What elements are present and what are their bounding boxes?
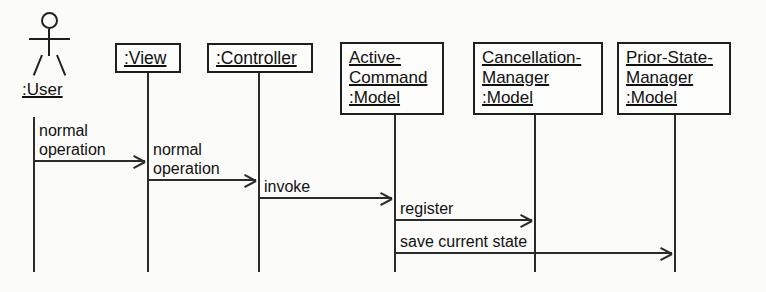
participant-label-active-command-line3: :Model xyxy=(349,88,435,108)
lifeline-active-command xyxy=(394,115,396,272)
message-label-register: register xyxy=(400,199,453,218)
participant-box-controller[interactable]: :Controller xyxy=(207,43,313,73)
participant-label-view: :View xyxy=(124,48,172,68)
actor-right-leg xyxy=(56,55,66,76)
participant-label-cancellation-manager-line3: :Model xyxy=(482,88,594,108)
actor-arms xyxy=(29,38,70,40)
lifeline-cancellation-manager xyxy=(534,115,536,272)
participant-label-prior-state-manager-line2: Manager xyxy=(626,68,722,88)
lifeline-prior-state-manager xyxy=(674,115,676,272)
participant-label-active-command-line2: Command xyxy=(349,68,435,88)
message-label-normal-operation-user-view-line1: normal xyxy=(39,121,88,140)
actor-left-leg xyxy=(33,55,43,76)
uml-sequence-diagram: :User :View :Controller Active- Command … xyxy=(0,0,766,292)
actor-body xyxy=(48,29,50,56)
participant-label-cancellation-manager-line1: Cancellation- xyxy=(482,48,594,68)
participant-box-cancellation-manager[interactable]: Cancellation- Manager :Model xyxy=(473,42,603,115)
message-arrow-line-save-current-state xyxy=(395,252,672,254)
lifeline-controller xyxy=(258,73,260,272)
message-label-normal-operation-view-controller-line2: operation xyxy=(153,159,220,178)
lifeline-user xyxy=(33,117,35,272)
message-arrow-line-normal-operation-user-view xyxy=(34,160,145,162)
message-label-save-current-state: save current state xyxy=(400,232,527,251)
participant-label-prior-state-manager-line3: :Model xyxy=(626,88,722,108)
participant-label-controller: :Controller xyxy=(216,48,304,68)
participant-box-view[interactable]: :View xyxy=(115,43,181,73)
message-arrow-line-invoke xyxy=(259,197,392,199)
message-arrow-line-normal-operation-view-controller xyxy=(148,179,256,181)
participant-label-prior-state-manager-line1: Prior-State- xyxy=(626,48,722,68)
message-label-invoke: invoke xyxy=(264,177,310,196)
lifeline-view xyxy=(147,73,149,272)
message-label-normal-operation-user-view-line2: operation xyxy=(39,140,106,159)
stick-figure-icon xyxy=(41,12,58,29)
actor-user-label: :User xyxy=(22,80,63,100)
message-arrow-line-register xyxy=(395,219,532,221)
participant-box-prior-state-manager[interactable]: Prior-State- Manager :Model xyxy=(617,42,731,115)
participant-label-active-command-line1: Active- xyxy=(349,48,435,68)
participant-label-cancellation-manager-line2: Manager xyxy=(482,68,594,88)
message-label-normal-operation-view-controller-line1: normal xyxy=(153,140,202,159)
participant-box-active-command[interactable]: Active- Command :Model xyxy=(340,42,444,115)
